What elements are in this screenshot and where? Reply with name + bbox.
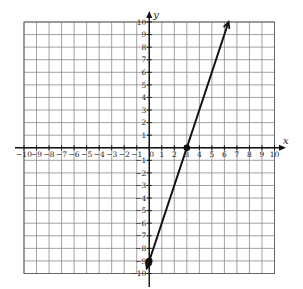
x-tick-label: −6: [69, 150, 80, 159]
y-axis-arrow-icon: [146, 11, 152, 18]
y-tick-label: 8: [141, 43, 146, 52]
y-tick-label: 6: [141, 68, 146, 77]
x-tick-label: 2: [172, 150, 177, 159]
y-tick-label: 2: [141, 118, 146, 127]
x-tick-label: 9: [260, 150, 265, 159]
y-axis-label: y: [152, 9, 159, 20]
x-tick-label: −9: [31, 150, 42, 159]
y-tick-label: −1: [135, 156, 146, 165]
y-tick-label: −6: [135, 219, 146, 228]
y-tick-label: −5: [135, 206, 146, 215]
plotted-point: [146, 258, 153, 265]
x-tick-label: −2: [119, 150, 130, 159]
y-tick-label: −9: [135, 257, 146, 266]
x-tick-label: 6: [222, 150, 227, 159]
x-tick-label: 1: [159, 150, 164, 159]
y-tick-label: 1: [141, 131, 146, 140]
y-tick-label: −4: [135, 194, 146, 203]
x-tick-label: −7: [56, 150, 67, 159]
y-tick-label: −8: [135, 244, 146, 253]
y-tick-label: −10: [130, 269, 146, 278]
x-axis-label: x: [283, 135, 289, 146]
y-tick-label: −7: [135, 231, 146, 240]
plotted-point: [184, 144, 191, 151]
y-tick-label: 3: [141, 106, 146, 115]
x-tick-label: −4: [94, 150, 105, 159]
x-tick-label: 10: [270, 150, 280, 159]
x-tick-label: −8: [44, 150, 55, 159]
coordinate-plane: −10−9−8−7−6−5−4−3−2−1012345678910−10−9−8…: [0, 0, 303, 289]
data-line: [146, 22, 230, 268]
x-tick-label: −3: [106, 150, 117, 159]
x-tick-label: 7: [235, 150, 240, 159]
y-tick-label: 4: [141, 93, 146, 102]
y-tick-label: 9: [141, 30, 146, 39]
x-tick-label: −5: [81, 150, 92, 159]
y-tick-label: 5: [141, 81, 146, 90]
x-tick-label: 8: [247, 150, 252, 159]
x-tick-label: 4: [197, 150, 202, 159]
x-tick-label: 0: [149, 150, 154, 159]
y-tick-label: −2: [135, 169, 146, 178]
x-tick-label: −10: [16, 150, 32, 159]
x-tick-label: 5: [209, 150, 214, 159]
y-tick-label: 10: [137, 18, 147, 27]
y-tick-label: 7: [141, 55, 146, 64]
y-tick-label: −3: [135, 181, 146, 190]
